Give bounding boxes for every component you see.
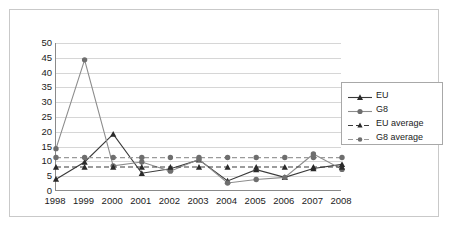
legend-key-eu-average-icon: [347, 117, 373, 128]
x-tick-label-2006: 2006: [273, 196, 294, 206]
legend-item-g8-average[interactable]: G8 average: [347, 130, 438, 143]
data-point: [111, 155, 116, 160]
data-point: [225, 155, 230, 160]
y-tick-label-5: 5: [18, 171, 52, 180]
x-tick-label-2001: 2001: [130, 196, 151, 206]
y-tick-label-10: 10: [18, 156, 52, 165]
legend-key-eu-icon: [347, 89, 373, 100]
x-tick-label-2005: 2005: [245, 196, 266, 206]
y-tick-label-50: 50: [18, 38, 52, 47]
chart-legend: EU G8 EU average: [341, 82, 443, 145]
data-point: [225, 180, 230, 185]
x-tick-label-2008: 2008: [330, 196, 351, 206]
y-axis-tick-labels: 05101520253035404550: [16, 43, 52, 191]
data-point: [168, 155, 173, 160]
legend-label-eu: EU: [376, 90, 389, 100]
data-point: [53, 155, 58, 160]
legend-key-g8-average-icon: [347, 131, 373, 142]
data-point: [339, 155, 344, 160]
series-g8-average: [53, 155, 344, 160]
data-point: [254, 155, 259, 160]
y-tick-label-15: 15: [18, 142, 52, 151]
data-point: [139, 155, 144, 160]
y-tick-label-25: 25: [18, 112, 52, 121]
x-tick-label-1998: 1998: [44, 196, 65, 206]
data-point: [282, 155, 287, 160]
legend-label-eu-average: EU average: [376, 118, 424, 128]
x-tick-label-2003: 2003: [187, 196, 208, 206]
y-tick-label-45: 45: [18, 53, 52, 62]
y-tick-label-40: 40: [18, 68, 52, 77]
x-tick-label-1999: 1999: [73, 196, 94, 206]
y-tick-label-30: 30: [18, 97, 52, 106]
plot-area: [55, 43, 341, 191]
data-point: [282, 175, 287, 180]
data-point: [254, 177, 259, 182]
legend-item-eu-average[interactable]: EU average: [347, 116, 438, 129]
x-tick-label-2002: 2002: [159, 196, 180, 206]
legend-item-eu[interactable]: EU: [347, 88, 438, 101]
data-point: [53, 146, 58, 151]
y-tick-label-35: 35: [18, 82, 52, 91]
data-point: [82, 155, 87, 160]
x-tick-label-2000: 2000: [102, 196, 123, 206]
series-eu-average: [53, 164, 345, 170]
legend-label-g8-average: G8 average: [376, 132, 423, 142]
series-layer: [56, 43, 342, 191]
y-tick-label-0: 0: [18, 186, 52, 195]
chart-figure: 05101520253035404550 1998199920002001200…: [0, 0, 449, 227]
x-tick-label-2007: 2007: [302, 196, 323, 206]
data-point: [82, 57, 87, 62]
data-point: [110, 131, 116, 137]
data-point: [311, 155, 316, 160]
legend-item-g8[interactable]: G8: [347, 102, 438, 115]
y-tick-label-20: 20: [18, 127, 52, 136]
x-tick-label-2004: 2004: [216, 196, 237, 206]
legend-key-g8-icon: [347, 103, 373, 114]
legend-label-g8: G8: [376, 104, 388, 114]
chart-outer-border: 05101520253035404550 1998199920002001200…: [9, 9, 439, 217]
data-point: [196, 155, 201, 160]
data-point: [53, 176, 59, 182]
x-axis-tick-labels: 1998199920002001200220032004200520062007…: [55, 196, 341, 210]
